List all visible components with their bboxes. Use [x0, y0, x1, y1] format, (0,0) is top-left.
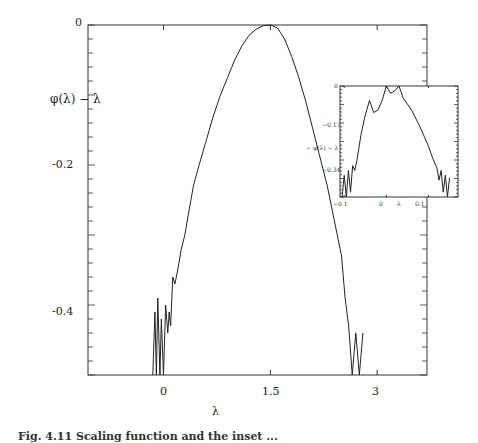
main-axes-frame: [88, 25, 427, 375]
inset-xtick-0.1: 0.1: [415, 200, 425, 207]
inset-xtick-minus-0.1: −0.1: [333, 200, 348, 207]
main-ytick-minus-0.4: -0.4: [52, 305, 73, 318]
inset-xtick-0: 0: [379, 200, 383, 207]
main-curve: [153, 25, 363, 375]
main-xtick-0: 0: [160, 385, 167, 398]
main-y-axis-label: φ(λ) − λ: [50, 92, 101, 106]
figure-caption: Fig. 4.11 Scaling function and the inset…: [18, 430, 278, 443]
main-xtick-1.5: 1.5: [262, 385, 280, 398]
main-ytick-0: 0: [75, 16, 82, 29]
inset-y-axis-label: − φ(λ) − λ: [306, 144, 338, 151]
inset-axes-frame: [340, 86, 458, 197]
main-x-axis-label: λ: [212, 405, 219, 418]
inset-ytick-0: 0: [334, 82, 338, 89]
inset-x-axis-label: λ: [397, 200, 401, 207]
main-xtick-3: 3: [372, 385, 379, 398]
main-ytick-minus-0.2: -0.2: [52, 158, 73, 171]
inset-ytick-minus-0.34: −0.34: [322, 166, 340, 173]
inset-ytick-minus-0.17: −0.17: [322, 121, 340, 128]
